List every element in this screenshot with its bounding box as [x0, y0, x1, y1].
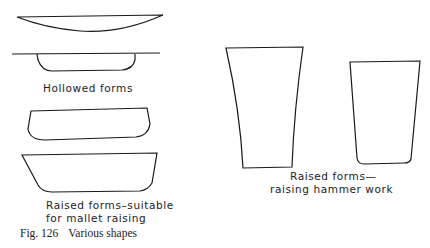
mallet-form-1-shape — [28, 108, 150, 140]
figure-caption-text: Various shapes — [68, 227, 137, 239]
label-hollowed-forms: Hollowed forms — [43, 82, 133, 95]
figure-number: Fig. 126 — [20, 227, 58, 239]
mallet-form-2-shape — [22, 153, 157, 192]
label-hammer-work-line2: raising hammer work — [270, 183, 393, 196]
label-mallet-raising-line2: for mallet raising — [46, 212, 146, 225]
hollowed-plate-line — [12, 53, 160, 54]
shallow-dish-shape — [17, 15, 163, 31]
label-hammer-work-line1: Raised forms— — [290, 170, 377, 183]
recessed-bowl-shape — [37, 54, 135, 71]
hammer-form-tall-shape — [226, 47, 303, 168]
figure-caption: Fig. 126Various shapes — [20, 227, 137, 239]
hammer-form-cup-shape — [350, 61, 420, 164]
label-mallet-raising-line1: Raised forms–suitable — [46, 199, 174, 212]
